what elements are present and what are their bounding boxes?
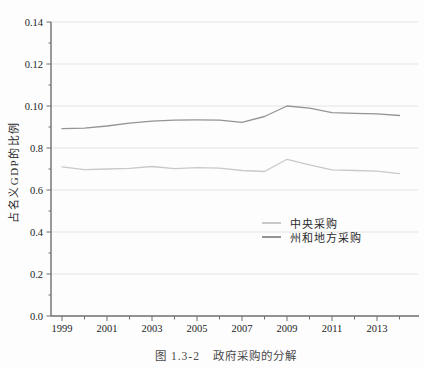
svg-text:0.6: 0.6 xyxy=(30,185,43,196)
svg-text:0.10: 0.10 xyxy=(25,101,43,112)
svg-text:0.8: 0.8 xyxy=(30,143,43,154)
svg-text:2005: 2005 xyxy=(187,323,208,334)
line-chart: 0.00.20.40.60.80.100.120.141999200120032… xyxy=(0,0,424,368)
legend-label-state-local: 州和地方采购 xyxy=(290,229,362,245)
figure-container: 0.00.20.40.60.80.100.120.141999200120032… xyxy=(0,0,424,368)
svg-text:2013: 2013 xyxy=(367,323,388,334)
figure-caption: 图 1.3-2政府采购的分解 xyxy=(0,347,424,363)
svg-text:2003: 2003 xyxy=(142,323,163,334)
svg-text:0.12: 0.12 xyxy=(25,59,43,70)
state-local-line-swatch xyxy=(262,236,281,238)
legend-item-central: 中央采购 xyxy=(262,216,362,230)
y-axis-title: 占名义GDP的比例 xyxy=(5,92,21,252)
svg-text:0.2: 0.2 xyxy=(30,269,43,280)
series-lines xyxy=(62,106,400,174)
caption-text: 政府采购的分解 xyxy=(213,350,297,362)
svg-text:2001: 2001 xyxy=(97,323,118,334)
legend-item-state-local: 州和地方采购 xyxy=(262,230,362,244)
legend: 中央采购 州和地方采购 xyxy=(262,216,362,244)
svg-text:2009: 2009 xyxy=(277,323,298,334)
axis-ticks xyxy=(47,22,400,321)
svg-text:0.14: 0.14 xyxy=(25,17,44,28)
svg-text:2007: 2007 xyxy=(232,323,253,334)
gridlines xyxy=(51,22,418,274)
svg-text:0.4: 0.4 xyxy=(30,227,44,238)
svg-text:0.0: 0.0 xyxy=(30,311,43,322)
svg-text:1999: 1999 xyxy=(52,323,73,334)
svg-text:2011: 2011 xyxy=(322,323,343,334)
central-line-swatch xyxy=(262,222,281,224)
caption-number: 图 1.3-2 xyxy=(155,350,200,362)
